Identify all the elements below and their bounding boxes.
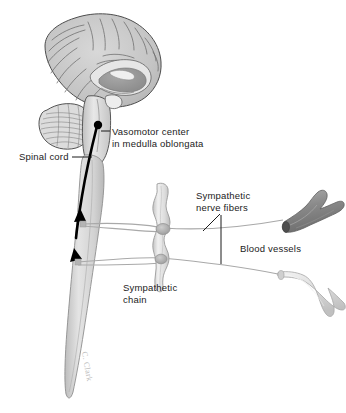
label-vasomotor-center: Vasomotor center in medulla oblongata <box>112 126 203 149</box>
blood-vessel-upper <box>282 190 344 232</box>
ganglion-upper <box>156 224 170 235</box>
label-sympathetic-chain: Sympathetic chain <box>123 282 177 305</box>
label-sympathetic-nerve-fibers: Sympathetic nerve fibers <box>196 190 250 213</box>
label-spinal-cord: Spinal cord <box>19 151 69 163</box>
label-blood-vessels: Blood vessels <box>240 243 301 255</box>
spinal-cord: C. Clark <box>65 155 104 398</box>
ganglion-lower <box>155 254 167 264</box>
anatomy-illustration: C. Clark <box>0 0 346 413</box>
sympathetic-chain <box>153 183 170 292</box>
artist-signature: C. Clark <box>80 351 94 382</box>
blood-vessel-lower <box>277 271 345 317</box>
cerebrum <box>45 14 161 108</box>
vasomotor-center-marker <box>94 121 102 129</box>
